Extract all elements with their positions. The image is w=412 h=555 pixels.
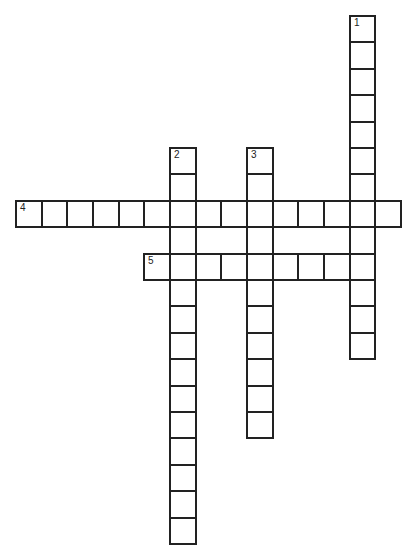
crossword-cell[interactable]	[169, 490, 197, 519]
crossword-cell[interactable]: 5	[143, 253, 171, 281]
crossword-cell[interactable]	[118, 200, 145, 228]
clue-number: 5	[148, 256, 154, 266]
crossword-cell[interactable]	[246, 226, 274, 255]
crossword-cell[interactable]	[169, 411, 197, 439]
crossword-cell[interactable]	[169, 279, 197, 307]
crossword-cell[interactable]	[169, 385, 197, 413]
crossword-cell[interactable]	[169, 173, 197, 202]
crossword-cell[interactable]	[169, 332, 197, 360]
crossword-cell[interactable]	[246, 279, 274, 307]
crossword-cell[interactable]	[143, 200, 171, 228]
crossword-cell[interactable]	[349, 253, 376, 281]
crossword-cell[interactable]	[246, 332, 274, 360]
clue-number: 1	[354, 18, 360, 28]
clue-number: 4	[20, 203, 26, 213]
crossword-cell[interactable]	[349, 68, 376, 96]
crossword-cell[interactable]	[349, 147, 376, 175]
crossword-cell[interactable]	[349, 279, 376, 307]
crossword-cell[interactable]	[349, 41, 376, 70]
crossword-cell[interactable]	[169, 517, 197, 545]
crossword-cell[interactable]	[297, 200, 325, 228]
crossword-cell[interactable]	[169, 464, 197, 492]
crossword-cell[interactable]	[323, 200, 351, 228]
crossword-cell[interactable]	[169, 437, 197, 466]
crossword-cell[interactable]	[349, 226, 376, 255]
crossword-cell[interactable]	[169, 226, 197, 255]
clue-number: 3	[251, 150, 257, 160]
crossword-cell[interactable]	[349, 173, 376, 202]
crossword-grid: 12345	[0, 0, 412, 555]
crossword-cell[interactable]	[246, 411, 274, 439]
crossword-cell[interactable]	[349, 332, 376, 360]
crossword-cell[interactable]	[374, 200, 402, 228]
crossword-cell[interactable]	[195, 253, 222, 281]
crossword-cell[interactable]	[323, 253, 351, 281]
crossword-cell[interactable]	[246, 385, 274, 413]
crossword-cell[interactable]	[297, 253, 325, 281]
crossword-cell[interactable]	[349, 121, 376, 149]
crossword-cell[interactable]	[169, 253, 197, 281]
crossword-cell[interactable]	[246, 173, 274, 202]
crossword-cell[interactable]	[246, 358, 274, 387]
crossword-cell[interactable]	[220, 200, 248, 228]
crossword-cell[interactable]	[272, 253, 299, 281]
crossword-cell[interactable]	[169, 358, 197, 387]
crossword-cell[interactable]: 2	[169, 147, 197, 175]
crossword-cell[interactable]	[246, 305, 274, 334]
crossword-cell[interactable]	[41, 200, 68, 228]
crossword-cell[interactable]: 1	[349, 15, 376, 43]
crossword-cell[interactable]	[349, 305, 376, 334]
crossword-cell[interactable]	[246, 253, 274, 281]
crossword-cell[interactable]	[92, 200, 120, 228]
crossword-cell[interactable]: 3	[246, 147, 274, 175]
crossword-cell[interactable]	[349, 94, 376, 123]
crossword-cell[interactable]	[169, 200, 197, 228]
clue-number: 2	[174, 150, 180, 160]
crossword-cell[interactable]	[220, 253, 248, 281]
crossword-cell[interactable]	[246, 200, 274, 228]
crossword-cell[interactable]: 4	[15, 200, 43, 228]
crossword-cell[interactable]	[169, 305, 197, 334]
crossword-cell[interactable]	[66, 200, 94, 228]
crossword-cell[interactable]	[272, 200, 299, 228]
crossword-cell[interactable]	[195, 200, 222, 228]
crossword-cell[interactable]	[349, 200, 376, 228]
